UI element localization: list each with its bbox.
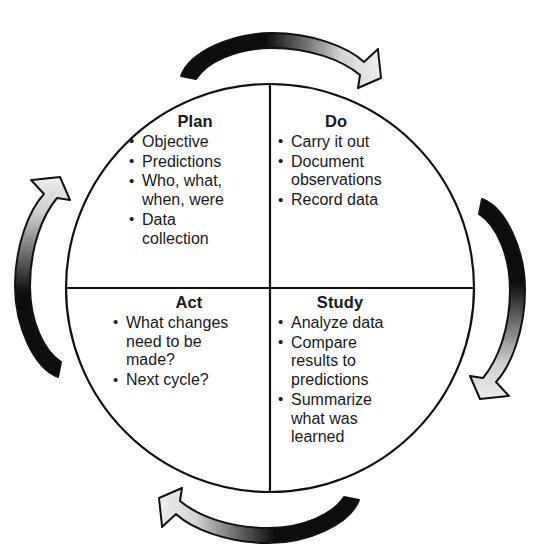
quadrant-plan-title: Plan [128,112,268,131]
list-item: •Next cycle? [112,371,270,390]
list-item-text: Summarize what was learned [291,391,372,445]
left-arrow-icon [15,177,70,377]
list-item: •Summarize what was learned [277,391,427,447]
quadrant-do-title: Do [277,112,425,131]
list-item-text: What changes need to be made? [126,314,228,368]
quadrant-plan-list: •Objective •Predictions •Who, what, when… [128,133,268,248]
quadrant-study-list: •Analyze data •Compare results to predic… [277,314,427,447]
bullet-icon: • [278,132,283,150]
top-arrow-icon [181,33,381,88]
list-item: •Analyze data [277,314,427,333]
pdsa-wheel-graphic [0,0,540,560]
quadrant-do-list: •Carry it out •Document observations •Re… [277,133,425,210]
list-item: •Data collection [128,211,268,248]
list-item-text: Next cycle? [126,371,209,388]
list-item-text: Who, what, when, were [142,172,224,208]
pdsa-cycle-diagram: Plan •Objective •Predictions •Who, what,… [0,0,540,560]
list-item-text: Carry it out [291,133,369,150]
bullet-icon: • [129,152,134,170]
list-item-text: Compare results to predictions [291,334,368,388]
quadrant-study-title: Study [277,293,427,312]
quadrant-act: Act •What changes need to be made? •Next… [112,293,270,391]
list-item: •What changes need to be made? [112,314,270,370]
quadrant-do: Do •Carry it out •Document observations … [277,112,425,211]
bottom-arrow-icon [159,488,359,543]
list-item: •Who, what, when, were [128,172,268,209]
bullet-icon: • [113,313,118,331]
list-item-text: Record data [291,191,378,208]
bullet-icon: • [129,132,134,150]
quadrant-act-list: •What changes need to be made? •Next cyc… [112,314,270,390]
list-item: •Document observations [277,153,425,190]
bullet-icon: • [278,333,283,351]
list-item: •Compare results to predictions [277,334,427,390]
list-item: •Predictions [128,153,268,172]
right-arrow-icon [470,199,525,399]
bullet-icon: • [278,152,283,170]
bullet-icon: • [129,172,134,190]
quadrant-act-title: Act [112,293,270,312]
list-item: •Record data [277,191,425,210]
list-item-text: Data collection [142,211,209,247]
quadrant-study: Study •Analyze data •Compare results to … [277,293,427,448]
list-item-text: Analyze data [291,314,384,331]
list-item: •Objective [128,133,268,152]
list-item-text: Document observations [291,153,382,189]
bullet-icon: • [278,390,283,408]
bullet-icon: • [278,313,283,331]
list-item-text: Predictions [142,153,221,170]
bullet-icon: • [129,210,134,228]
bullet-icon: • [113,371,118,389]
list-item: •Carry it out [277,133,425,152]
quadrant-plan: Plan •Objective •Predictions •Who, what,… [128,112,268,249]
list-item-text: Objective [142,133,209,150]
bullet-icon: • [278,191,283,209]
